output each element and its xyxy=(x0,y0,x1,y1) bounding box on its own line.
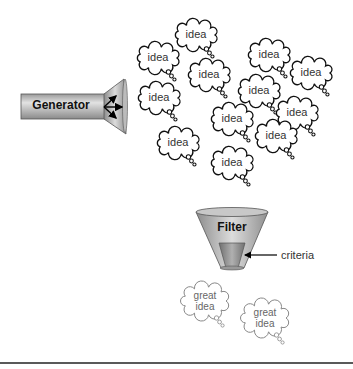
idea-cloud-label: idea xyxy=(214,157,250,168)
filter-label: Filter xyxy=(210,222,254,233)
great-idea-label: greatidea xyxy=(185,290,225,312)
generator-label: Generator xyxy=(25,100,97,111)
idea-cloud-label: idea xyxy=(214,113,250,124)
filter-funnel xyxy=(196,208,277,271)
idea-cloud-label: idea xyxy=(191,69,227,80)
criteria-label: criteria xyxy=(281,250,314,261)
idea-cloud-label: idea xyxy=(141,92,177,103)
idea-cloud-label: idea xyxy=(241,85,277,96)
idea-cloud-label: idea xyxy=(178,29,214,40)
idea-cloud-label: idea xyxy=(251,49,287,60)
idea-cloud-label: idea xyxy=(293,67,329,78)
idea-cloud-label: idea xyxy=(160,137,196,148)
diagram-canvas xyxy=(0,0,353,369)
idea-cloud-label: idea xyxy=(258,130,294,141)
idea-cloud-label: idea xyxy=(140,52,176,63)
great-idea-label: greatidea xyxy=(245,307,285,329)
idea-cloud-label: idea xyxy=(279,107,315,118)
